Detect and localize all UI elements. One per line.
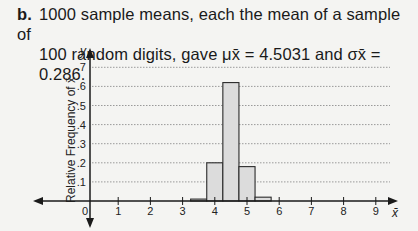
y-axis-name: y: [79, 44, 87, 58]
y-tick-label: .4: [77, 119, 86, 131]
x-axis-left-arrow-icon: [33, 197, 43, 205]
x-axis-title: x̄: [391, 206, 399, 220]
x-tick-label: 5: [244, 205, 250, 217]
y-tick-label: .2: [77, 157, 86, 169]
y-tick-label: .7: [77, 61, 86, 73]
histogram-bar: [239, 167, 255, 201]
y-axis-title: Relative Frequency of x̄: [64, 77, 78, 203]
y-tick-label: .3: [77, 138, 86, 150]
gridlines: [92, 67, 390, 182]
x-tick-label: 8: [341, 205, 347, 217]
y-tick-label: .1: [77, 176, 86, 188]
x-tick-label: 0: [82, 205, 88, 217]
y-tick-labels: .1.2.3.4.5.6.7: [77, 61, 86, 188]
x-tick-label: 6: [276, 205, 282, 217]
histogram-bar: [207, 163, 223, 201]
histogram-bars: [191, 83, 272, 201]
x-axis-right-arrow-icon: [388, 197, 398, 205]
y-axis-down-arrow-icon: [86, 218, 94, 228]
histogram-chart: 0123456789 .1.2.3.4.5.6.7 y x̄ Relative …: [0, 0, 418, 231]
y-axis-up-arrow-icon: [86, 48, 94, 58]
x-tick-label: 3: [180, 205, 186, 217]
y-tick-label: .6: [77, 80, 86, 92]
y-tick-label: .5: [77, 100, 86, 112]
x-tick-label: 4: [212, 205, 218, 217]
x-tick-label: 9: [373, 205, 379, 217]
x-tick-label: 1: [115, 205, 121, 217]
x-tick-label: 7: [308, 205, 314, 217]
x-tick-label: 2: [147, 205, 153, 217]
histogram-bar: [223, 83, 239, 201]
